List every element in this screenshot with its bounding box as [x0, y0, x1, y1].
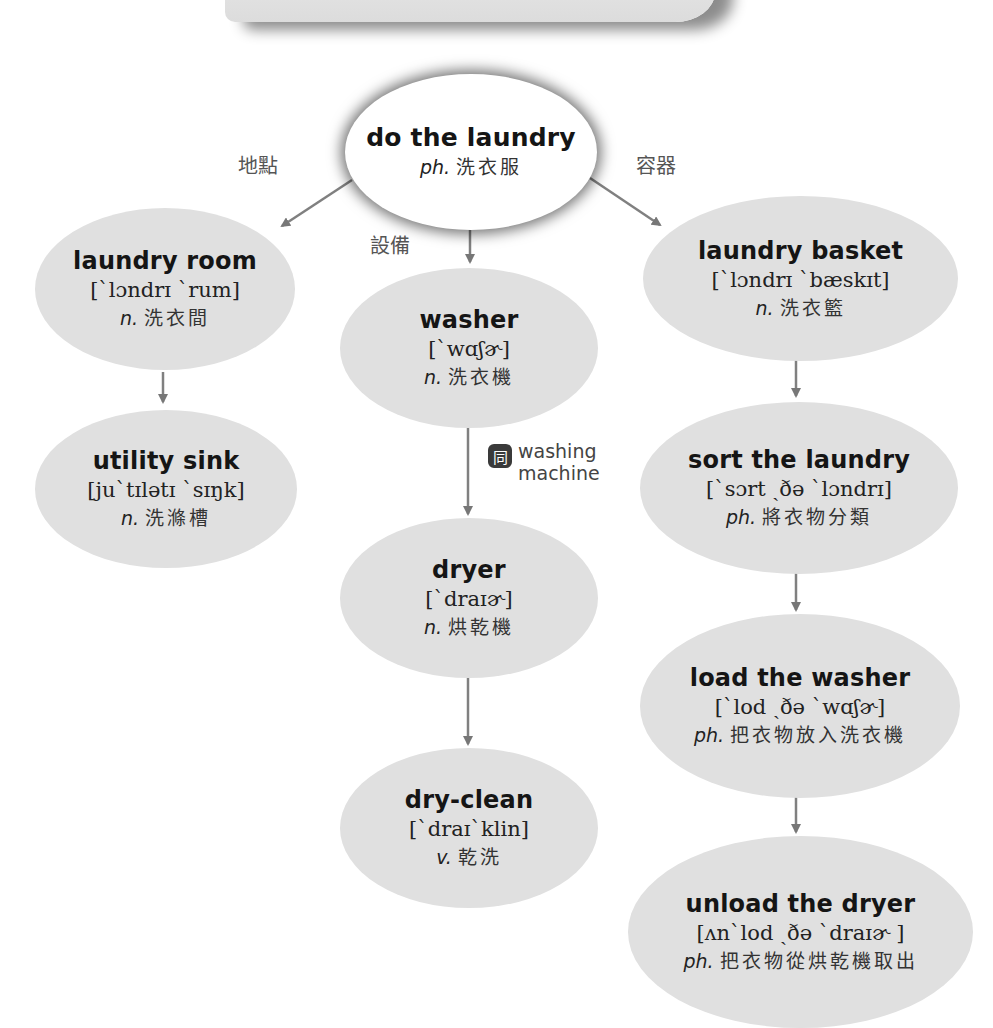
meaning: 洗衣機 — [448, 366, 514, 388]
meaning: 將衣物分類 — [762, 506, 872, 528]
term: dry-clean — [405, 785, 533, 815]
node-dry-clean: dry-clean [`draɪ`klin] v.乾洗 — [340, 748, 598, 908]
pos: ph. — [726, 506, 756, 528]
meaning: 洗衣籃 — [780, 297, 846, 319]
ipa: [`draɪɚ] — [425, 585, 512, 613]
arrow-root-to-laundry-basket — [590, 178, 660, 225]
ipa: [`lɔndrɪ `bæskɪt] — [711, 266, 889, 294]
synonym-note: 同 washing machine — [488, 440, 600, 484]
node-dryer: dryer [`draɪɚ] n.烘乾機 — [340, 518, 598, 678]
meaning: 烘乾機 — [448, 616, 514, 638]
node-load-the-washer: load the washer [`lod ˏðə `wɑʃɚ] ph.把衣物放… — [640, 614, 960, 798]
pos: ph. — [683, 950, 713, 972]
node-laundry-basket: laundry basket [`lɔndrɪ `bæskɪt] n.洗衣籃 — [643, 196, 958, 361]
definition: n.洗衣籃 — [755, 294, 845, 322]
root-term: do the laundry — [366, 123, 576, 153]
term: laundry basket — [698, 236, 903, 266]
node-washer: washer [`wɑʃɚ] n.洗衣機 — [340, 268, 598, 428]
node-laundry-room: laundry room [`lɔndrɪ `rum] n.洗衣間 — [35, 208, 295, 370]
branch-label-equipment: 設備 — [370, 230, 410, 259]
root-pos: ph. — [420, 156, 450, 178]
term: utility sink — [93, 446, 240, 476]
synonym-line2: machine — [518, 462, 600, 484]
pos: n. — [121, 507, 139, 529]
ipa: [`lod ˏðə `wɑʃɚ] — [715, 693, 885, 721]
definition: ph.把衣物放入洗衣機 — [694, 721, 906, 749]
arrow-root-to-laundry-room — [282, 180, 352, 226]
synonym-badge-icon: 同 — [488, 444, 512, 468]
branch-label-container: 容器 — [636, 150, 676, 179]
definition: n.洗滌槽 — [121, 504, 211, 532]
pos: v. — [436, 846, 452, 868]
term: sort the laundry — [688, 445, 910, 475]
pos: n. — [120, 307, 138, 329]
root-meaning: 洗衣服 — [456, 156, 522, 178]
meaning: 洗衣間 — [144, 307, 210, 329]
synonym-text: washing machine — [518, 440, 600, 484]
meaning: 乾洗 — [458, 846, 502, 868]
branch-label-location: 地點 — [238, 150, 278, 179]
definition: n.洗衣機 — [424, 363, 514, 391]
synonym-line1: washing — [518, 440, 600, 462]
node-unload-the-dryer: unload the dryer [ʌn`lod ˏðə `draɪɚ ] ph… — [628, 836, 973, 1028]
pos: n. — [424, 616, 442, 638]
node-utility-sink: utility sink [ju`tɪlətɪ `sɪŋk] n.洗滌槽 — [35, 410, 297, 568]
definition: ph.將衣物分類 — [726, 503, 872, 531]
root-node: do the laundry ph.洗衣服 — [345, 74, 597, 230]
term: washer — [419, 305, 518, 335]
term: dryer — [432, 555, 506, 585]
meaning: 洗滌槽 — [145, 507, 211, 529]
term: laundry room — [73, 246, 257, 276]
ipa: [`sɔrt ˏðə `lɔndrɪ] — [706, 475, 892, 503]
root-definition: ph.洗衣服 — [420, 153, 522, 181]
pos: n. — [755, 297, 773, 319]
pos: n. — [424, 366, 442, 388]
ipa: [`draɪ`klin] — [409, 815, 529, 843]
term: unload the dryer — [686, 889, 916, 919]
definition: n.洗衣間 — [120, 304, 210, 332]
pos: ph. — [694, 724, 724, 746]
ipa: [`wɑʃɚ] — [428, 335, 510, 363]
node-sort-the-laundry: sort the laundry [`sɔrt ˏðə `lɔndrɪ] ph.… — [640, 402, 958, 574]
ipa: [ʌn`lod ˏðə `draɪɚ ] — [696, 919, 904, 947]
ipa: [ju`tɪlətɪ `sɪŋk] — [87, 476, 244, 504]
definition: n.烘乾機 — [424, 613, 514, 641]
ipa: [`lɔndrɪ `rum] — [90, 276, 240, 304]
meaning: 把衣物放入洗衣機 — [730, 724, 906, 746]
term: load the washer — [690, 663, 911, 693]
meaning: 把衣物從烘乾機取出 — [720, 950, 918, 972]
definition: v.乾洗 — [436, 843, 502, 871]
definition: ph.把衣物從烘乾機取出 — [683, 947, 917, 975]
